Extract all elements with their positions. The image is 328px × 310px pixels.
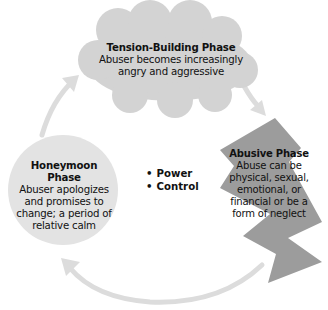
abusive-phase-description: Abuse can be physical, sexual, emotional… [224,160,314,220]
arrow-tension-to-abusive [244,86,266,116]
center-concepts-list: Power Control [146,168,199,193]
honeymoon-phase-description: Abuser apologizes and promises to change… [14,184,114,232]
honeymoon-phase-label: Honeymoon Phase Abuser apologizes and pr… [14,160,114,232]
tension-phase-description: Abuser becomes increasingly angry and ag… [96,54,246,78]
center-item-power: Power [146,168,199,181]
abusive-phase-label: Abusive Phase Abuse can be physical, sex… [224,148,314,220]
arrow-abusive-to-honeymoon [61,258,262,302]
tension-phase-label: Tension-Building Phase Abuser becomes in… [96,42,246,78]
honeymoon-phase-title: Honeymoon Phase [14,160,114,184]
arrow-honeymoon-to-tension [42,75,79,135]
abusive-phase-title: Abusive Phase [224,148,314,160]
center-item-control: Control [146,181,199,194]
tension-phase-title: Tension-Building Phase [96,42,246,54]
